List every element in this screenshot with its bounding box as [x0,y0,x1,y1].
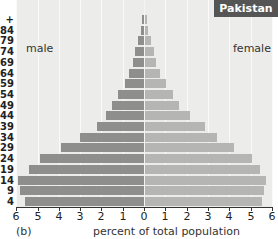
male-bar [97,122,144,131]
female-bar [145,133,217,142]
x-tick-label: 5 [244,210,258,223]
gridline [16,0,17,207]
female-bar [145,26,148,35]
male-bar [138,36,144,45]
age-group-label: 59 [0,79,14,89]
x-tick-label: 6 [265,210,278,223]
male-bar [112,101,144,110]
x-tick-label: 1 [116,210,130,223]
x-tick-label: 4 [222,210,236,223]
x-tick-label: 2 [180,210,194,223]
x-tick-label: 0 [137,210,151,223]
age-group-label: 29 [0,143,14,153]
male-bar [106,111,144,120]
age-group-label: 54 [0,90,14,100]
male-bar [61,143,144,152]
female-bar [145,143,234,152]
x-tick-label: 3 [73,210,87,223]
country-badge: Pakistan [214,0,278,17]
male-bar [80,133,144,142]
female-bar [145,79,166,88]
age-group-label: 4 [0,197,14,207]
female-bar [145,165,260,174]
female-bar [145,47,154,56]
x-tick-label: 3 [201,210,215,223]
age-group-label: 79 [0,36,14,46]
female-bar [145,101,179,110]
male-bar [25,197,144,206]
x-tick-label: 4 [52,210,66,223]
male-bar [142,15,144,24]
age-group-label: 74 [0,47,14,57]
female-bar [145,197,262,206]
female-bar [145,58,156,67]
female-bar [145,154,252,163]
x-tick-label: 5 [31,210,45,223]
male-bar [20,186,144,195]
age-group-label: 19 [0,165,14,175]
female-bar [145,122,205,131]
female-bar [145,176,266,185]
male-bar [135,47,144,56]
age-group-label: 24 [0,154,14,164]
x-tick-label: 1 [158,210,172,223]
female-bar [145,69,160,78]
x-axis-title: percent of total population [93,225,240,238]
male-bar [29,165,144,174]
age-group-label: 9 [0,186,14,196]
male-bar [40,154,144,163]
female-bar [145,111,190,120]
male-bar [141,26,144,35]
age-group-label: 39 [0,122,14,132]
age-group-label: 44 [0,111,14,121]
x-tick-label: 2 [94,210,108,223]
female-label: female [233,42,271,55]
age-group-label: 69 [0,58,14,68]
panel-label: (b) [16,225,32,238]
age-group-label: + [0,15,14,25]
male-bar [133,58,144,67]
female-bar [145,36,151,45]
population-pyramid-chart: +84797469645954494439342924191494 654321… [0,0,278,239]
x-tick-label: 6 [9,210,23,223]
male-bar [118,90,144,99]
gridline [272,0,273,207]
female-bar [145,90,173,99]
male-bar [129,69,144,78]
male-bar [125,79,144,88]
male-label: male [26,42,53,55]
male-bar [18,176,144,185]
female-bar [145,186,264,195]
female-bar [145,15,147,24]
